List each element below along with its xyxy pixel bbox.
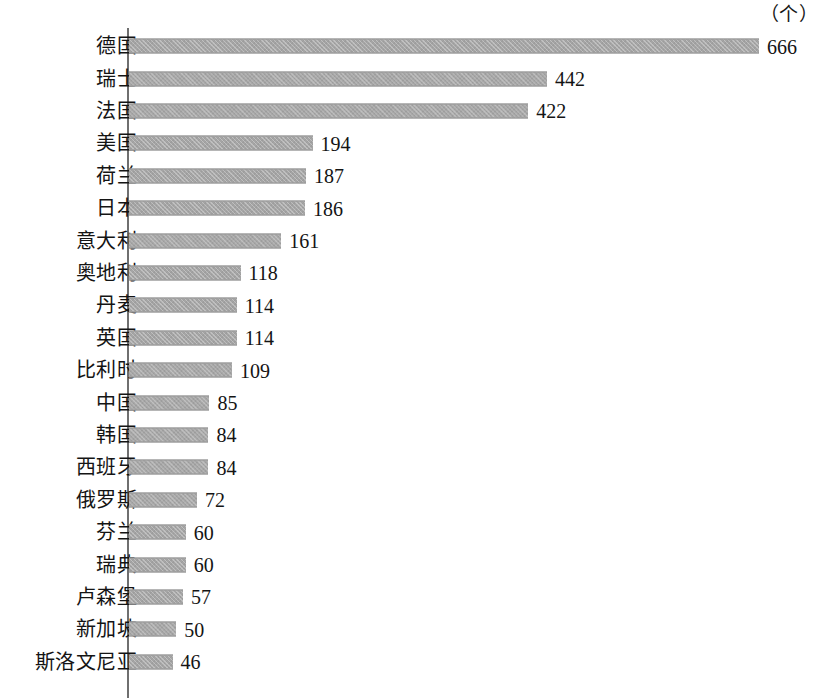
bar-row: 比利时109 [0,354,832,386]
bar-row: 德国666 [0,30,832,62]
bar-row: 日本186 [0,192,832,224]
bar-row: 英国114 [0,322,832,354]
bar-value-label: 194 [321,133,351,153]
bar-row: 法国422 [0,95,832,127]
bar-value-label: 57 [191,587,211,607]
bar-row: 新加坡50 [0,613,832,645]
bar-wrapper: 60 [129,525,214,540]
bar[interactable] [129,363,232,378]
category-label: 卢森堡 [76,585,138,608]
bar-value-label: 109 [240,360,270,380]
bar-wrapper: 57 [129,589,211,604]
category-label: 俄罗斯 [76,488,138,511]
bar[interactable] [129,39,759,54]
bar[interactable] [129,201,305,216]
bar[interactable] [129,427,208,442]
bar-wrapper: 194 [129,136,351,151]
category-label: 新加坡 [76,618,138,641]
bar-row: 俄罗斯72 [0,484,832,516]
bar-row: 奥地利118 [0,257,832,289]
bar-wrapper: 114 [129,298,274,313]
bar-row: 芬兰60 [0,516,832,548]
bar-wrapper: 109 [129,363,270,378]
bar[interactable] [129,525,186,540]
plot-area: 德国666瑞士442法国422美国194荷兰187日本186意大利161奥地利1… [0,28,832,698]
bar-wrapper: 85 [129,395,237,410]
bar-row: 瑞典60 [0,548,832,580]
category-label: 意大利 [76,229,138,252]
bar[interactable] [129,136,313,151]
bar-value-label: 118 [249,263,278,283]
bar-value-label: 187 [314,166,344,186]
bar[interactable] [129,71,547,86]
bar-value-label: 422 [536,101,566,121]
bar-row: 意大利161 [0,224,832,256]
unit-label: （个） [760,4,819,26]
bar[interactable] [129,265,241,280]
bar-wrapper: 422 [129,103,566,118]
bar-wrapper: 186 [129,201,343,216]
bar-wrapper: 72 [129,492,225,507]
bar-wrapper: 60 [129,557,214,572]
bar-row: 斯洛文尼亚46 [0,646,832,678]
bar[interactable] [129,492,197,507]
bar-row: 西班牙84 [0,451,832,483]
bar-row: 荷兰187 [0,160,832,192]
bar-wrapper: 50 [129,622,204,637]
bar-row: 瑞士442 [0,62,832,94]
bar[interactable] [129,168,306,183]
bar[interactable] [129,298,237,313]
bar-value-label: 114 [245,295,274,315]
bar-wrapper: 442 [129,71,585,86]
bar-wrapper: 46 [129,654,201,669]
bar-wrapper: 114 [129,330,274,345]
bar-value-label: 84 [216,425,236,445]
bar-row: 韩国84 [0,419,832,451]
bar[interactable] [129,330,237,345]
bar-wrapper: 666 [129,39,797,54]
bar[interactable] [129,460,208,475]
bar[interactable] [129,395,209,410]
bar-value-label: 84 [216,457,236,477]
bar-wrapper: 84 [129,460,236,475]
bar-row: 美国194 [0,127,832,159]
bar-value-label: 60 [194,522,214,542]
bar-value-label: 114 [245,328,274,348]
bar-wrapper: 118 [129,265,278,280]
bar-value-label: 442 [555,69,585,89]
bar-chart: （个） 德国666瑞士442法国422美国194荷兰187日本186意大利161… [0,0,832,698]
bar-row: 卢森堡57 [0,581,832,613]
category-label: 西班牙 [76,456,138,479]
bar[interactable] [129,233,281,248]
bar-value-label: 85 [217,393,237,413]
bar[interactable] [129,103,528,118]
bar[interactable] [129,557,186,572]
bar-row: 丹麦114 [0,289,832,321]
bar-value-label: 186 [313,198,343,218]
bar[interactable] [129,622,176,637]
bar-wrapper: 84 [129,427,236,442]
bar-value-label: 50 [184,619,204,639]
bar-wrapper: 161 [129,233,319,248]
bar[interactable] [129,589,183,604]
category-label: 奥地利 [76,261,138,284]
bar-wrapper: 187 [129,168,344,183]
bar[interactable] [129,654,173,669]
category-label: 斯洛文尼亚 [35,650,138,673]
bar-value-label: 72 [205,490,225,510]
bar-row: 中国85 [0,386,832,418]
bar-value-label: 666 [767,36,797,56]
bar-value-label: 60 [194,555,214,575]
category-label: 比利时 [76,359,138,382]
bar-value-label: 46 [181,652,201,672]
bar-value-label: 161 [289,231,319,251]
